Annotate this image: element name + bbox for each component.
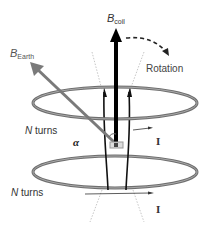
dotted-field-lines-bottom	[90, 190, 144, 222]
n-turns-top-label: N turns	[25, 125, 57, 136]
b-coil-label: Bcoil	[107, 12, 125, 25]
rotation-label: Rotation	[146, 63, 183, 74]
bottom-coil-highlight	[33, 156, 197, 188]
current-arrow-top	[133, 127, 153, 131]
alpha-label: α	[73, 136, 80, 148]
current-arrow-bottom	[85, 192, 154, 195]
n-turns-bottom-label: N turns	[11, 187, 43, 198]
current-label-top: I	[156, 135, 160, 147]
b-earth-label: BEarth	[10, 47, 34, 60]
rotation-arrow	[126, 38, 169, 56]
helmholtz-coil-diagram: Bcoil BEarth Rotation N turns α I N turn…	[0, 0, 207, 234]
current-label-bottom: I	[156, 203, 160, 215]
